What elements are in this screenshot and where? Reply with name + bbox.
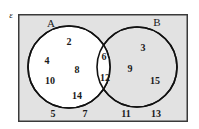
element-intersection: 6 [102,52,107,62]
set-b-label: B [153,17,160,28]
set-a-label: A [47,18,55,29]
element-outside: 13 [151,109,161,119]
element-outside: 7 [83,109,88,119]
element-outside: 5 [51,109,56,119]
element-intersection: 12 [100,73,110,83]
venn-diagram-canvas [0,0,199,129]
element-b-only: 3 [141,43,146,53]
element-outside: 11 [121,109,130,119]
element-a-only: 2 [67,37,72,47]
venn-diagram-figure: ε A B 2 4 8 10 14 6 12 3 9 15 5 7 11 13 [0,0,199,129]
element-b-only: 15 [150,76,160,86]
element-b-only: 9 [128,64,133,74]
element-a-only: 4 [45,56,50,66]
element-a-only: 10 [45,76,55,86]
universal-set-label: ε [9,11,13,20]
element-a-only: 14 [72,91,82,101]
element-a-only: 8 [75,65,80,75]
